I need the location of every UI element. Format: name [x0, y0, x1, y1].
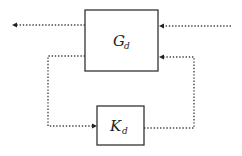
controller-symbol: K — [109, 117, 122, 135]
arrow-left-icon — [159, 24, 164, 29]
controller-block: K d — [97, 106, 144, 145]
arrow-left-icon — [159, 55, 164, 60]
plant-block: G d — [85, 10, 158, 71]
arrow-left-icon — [12, 23, 17, 28]
arrow-right-icon — [92, 124, 97, 129]
feedback-block-diagram: G d K d — [0, 0, 242, 156]
plant-subscript: d — [124, 41, 130, 51]
controller-subscript: d — [122, 126, 128, 136]
output-signal-left — [12, 23, 85, 28]
input-signal-right — [159, 24, 231, 29]
